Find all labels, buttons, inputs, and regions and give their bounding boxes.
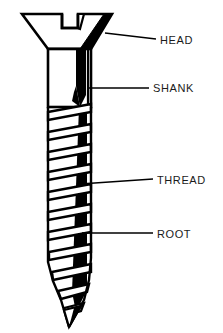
screw-shank-group [48,49,91,107]
screw-diagram: HEAD SHANK THREAD ROOT [0,0,223,333]
screw-head-group [22,14,112,49]
screw-thread-group [48,104,91,327]
head-slot-notch [62,14,78,28]
leader-line-head [105,33,156,39]
screw-tip-group [64,306,81,327]
screw-illustration [0,0,223,333]
label-head: HEAD [160,35,193,46]
label-root: ROOT [157,229,191,240]
label-shank: SHANK [153,83,194,94]
label-thread: THREAD [157,175,206,186]
